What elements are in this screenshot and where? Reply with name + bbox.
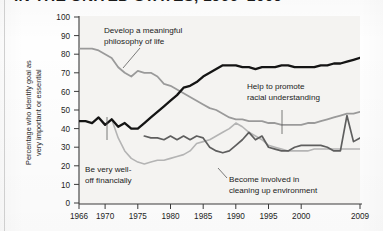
y-tick-label-80: 80 xyxy=(61,50,71,59)
y-axis-ticks xyxy=(74,17,79,203)
annotation-philosophy-line2: philosophy of life xyxy=(104,37,165,46)
y-tick-label-100: 100 xyxy=(56,13,70,22)
x-tick-label-1990: 1990 xyxy=(227,212,246,221)
annotation-philosophy-line1: Develop a meaningful xyxy=(104,26,182,35)
y-tick-label-20: 20 xyxy=(61,162,71,171)
y-tick-label-90: 90 xyxy=(61,32,71,41)
x-axis-ticks xyxy=(79,204,360,209)
y-tick-label-40: 40 xyxy=(61,125,71,134)
annotation-racial-line2: racial understanding xyxy=(247,93,320,102)
annotation-racial-line1: Help to promote xyxy=(247,82,305,91)
chart-svg: 100 90 80 70 60 50 40 30 20 10 0 xyxy=(0,0,383,231)
annotation-financial-line2: off financially xyxy=(85,176,133,185)
annotation-financial-line1: Be very well- xyxy=(85,165,132,174)
x-tick-label-1995: 1995 xyxy=(259,212,278,221)
chart-figure: IN THE UNITED STATES, 1966–2009 Percenta… xyxy=(0,0,383,231)
x-tick-label-2000: 2000 xyxy=(292,212,311,221)
annotation-environment-line2: cleaning up environment xyxy=(229,186,318,195)
x-tick-label-1970: 1970 xyxy=(96,212,115,221)
plot-area: 100 90 80 70 60 50 40 30 20 10 0 xyxy=(0,0,383,231)
y-tick-label-0: 0 xyxy=(65,199,70,208)
x-tick-label-1966: 1966 xyxy=(70,212,89,221)
y-tick-label-50: 50 xyxy=(61,106,71,115)
y-tick-label-60: 60 xyxy=(61,88,71,97)
y-tick-label-10: 10 xyxy=(61,181,71,190)
x-tick-label-2009: 2009 xyxy=(351,212,370,221)
y-tick-label-30: 30 xyxy=(61,143,71,152)
x-tick-label-1975: 1975 xyxy=(129,212,148,221)
x-tick-label-1985: 1985 xyxy=(194,212,213,221)
annotation-environment-line1: Become involved in xyxy=(229,175,299,184)
y-tick-label-70: 70 xyxy=(61,69,71,78)
x-tick-label-1980: 1980 xyxy=(161,212,180,221)
